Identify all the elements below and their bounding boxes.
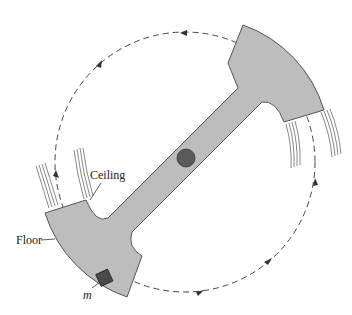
orbit-arrow-icon <box>180 30 187 36</box>
orbit-arrow-icon <box>196 290 204 296</box>
orbit-arrow-icon <box>53 170 59 178</box>
mass-label-leader <box>92 282 100 288</box>
floor-label: Floor <box>16 233 42 248</box>
central-object <box>177 149 195 167</box>
floor-leader <box>41 239 55 240</box>
motion-streaks-left <box>36 148 93 208</box>
orbit-arrow-icon <box>264 258 272 265</box>
mass-label: m <box>83 288 92 303</box>
rotating-space-station-diagram <box>0 0 352 315</box>
ceiling-label: Ceiling <box>90 168 125 183</box>
